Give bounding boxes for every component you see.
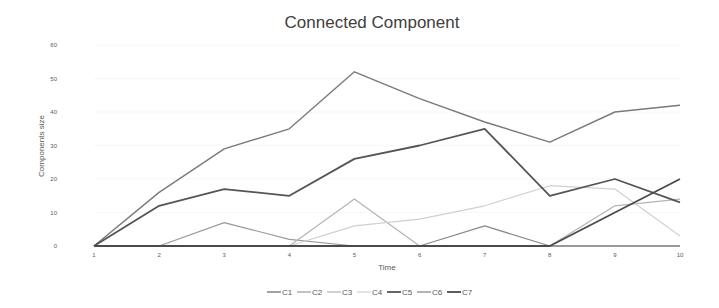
legend-item-c1: C1 [267, 288, 293, 297]
x-tick-label: 6 [418, 252, 422, 258]
legend-label: C7 [462, 288, 473, 297]
line-chart: Connected Component 0102030405060 123456… [0, 0, 719, 308]
x-tick-label: 8 [548, 252, 552, 258]
y-tick-label: 50 [50, 76, 57, 82]
x-axis-ticks: 12345678910 [92, 252, 684, 258]
legend: C1C2C3C4C5C6C7 [267, 288, 473, 297]
legend-item-c4: C4 [357, 288, 383, 297]
x-tick-label: 9 [613, 252, 617, 258]
gridlines [94, 45, 680, 246]
y-tick-label: 40 [50, 109, 57, 115]
legend-item-c2: C2 [297, 288, 323, 297]
y-tick-label: 10 [50, 210, 57, 216]
legend-label: C6 [432, 288, 443, 297]
x-tick-label: 7 [483, 252, 487, 258]
y-tick-label: 30 [50, 143, 57, 149]
x-tick-label: 3 [223, 252, 227, 258]
x-tick-label: 4 [288, 252, 292, 258]
y-tick-label: 60 [50, 42, 57, 48]
legend-label: C2 [312, 288, 323, 297]
legend-label: C1 [282, 288, 293, 297]
series-line-c6 [94, 226, 680, 246]
y-axis-ticks: 0102030405060 [50, 42, 57, 249]
series-line-c2 [94, 223, 680, 246]
legend-item-c3: C3 [327, 288, 353, 297]
legend-label: C5 [402, 288, 413, 297]
series-line-c4 [94, 186, 680, 246]
y-tick-label: 20 [50, 176, 57, 182]
x-axis-label: Time [378, 263, 396, 272]
legend-label: C4 [372, 288, 383, 297]
x-tick-label: 5 [353, 252, 357, 258]
legend-item-c7: C7 [447, 288, 473, 297]
x-tick-label: 2 [157, 252, 161, 258]
series-lines [94, 72, 680, 246]
y-tick-label: 0 [54, 243, 58, 249]
y-axis-label: Components size [37, 115, 46, 177]
legend-label: C3 [342, 288, 353, 297]
legend-item-c6: C6 [417, 288, 443, 297]
x-tick-label: 1 [92, 252, 96, 258]
legend-item-c5: C5 [387, 288, 413, 297]
x-tick-label: 10 [677, 252, 684, 258]
chart-title: Connected Component [285, 13, 460, 32]
